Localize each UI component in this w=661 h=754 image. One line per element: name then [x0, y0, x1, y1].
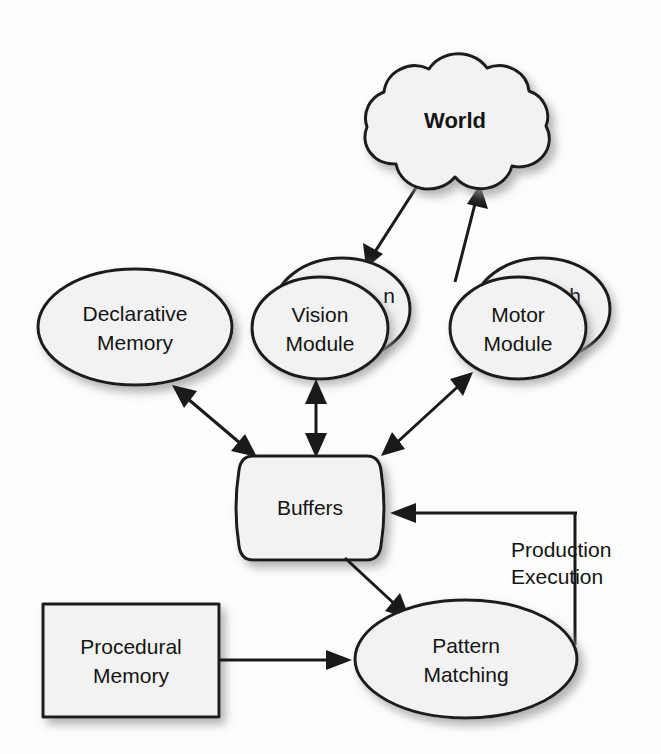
node-vision-module-label-line2: Module: [286, 332, 355, 355]
node-world-label: World: [424, 108, 486, 133]
node-motor-module-label-line2: Module: [484, 332, 553, 355]
node-declarative-memory[interactable]: Declarative Memory: [38, 269, 232, 385]
edge-production-execution-label-line1: Production: [511, 538, 611, 561]
edge-motor-buffers: [381, 372, 473, 456]
node-declarative-memory-label-line2: Memory: [97, 331, 173, 354]
node-pattern-matching-label-line1: Pattern: [432, 634, 500, 657]
node-buffers[interactable]: Buffers: [236, 456, 384, 560]
node-vision-module-ghost-label: n: [383, 284, 395, 307]
node-procedural-memory-label-line2: Memory: [93, 664, 169, 687]
node-procedural-memory-label-line1: Procedural: [80, 635, 182, 658]
edge-procedural-to-pattern-matching: [219, 650, 352, 670]
node-buffers-label: Buffers: [277, 496, 343, 519]
edge-motor-to-world: [455, 184, 488, 282]
edge-production-execution-label-line2: Execution: [511, 565, 603, 588]
node-vision-module[interactable]: n Vision Module: [252, 258, 410, 379]
diagram-canvas: World Declarative Memory n Vision Module…: [0, 0, 661, 754]
node-vision-module-label-line1: Vision: [292, 303, 349, 326]
node-world[interactable]: World: [365, 54, 549, 189]
node-procedural-memory[interactable]: Procedural Memory: [43, 604, 219, 717]
edge-vision-buffers: [305, 379, 327, 458]
architecture-diagram: World Declarative Memory n Vision Module…: [0, 0, 661, 754]
node-pattern-matching-label-line2: Matching: [423, 663, 508, 686]
edge-declarative-buffers: [172, 385, 257, 457]
node-motor-module-label-line1: Motor: [491, 303, 545, 326]
node-motor-module[interactable]: h Motor Module: [450, 258, 610, 379]
node-pattern-matching[interactable]: Pattern Matching: [355, 600, 577, 718]
node-declarative-memory-label-line1: Declarative: [82, 302, 187, 325]
edge-world-to-vision: [363, 180, 421, 268]
